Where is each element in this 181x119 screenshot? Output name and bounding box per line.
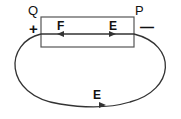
label-e-inside: E [109, 20, 117, 32]
label-f: F [57, 20, 64, 32]
minus-sign: — [140, 20, 154, 34]
label-p: P [135, 4, 144, 17]
plus-sign: + [29, 21, 38, 36]
label-e-loop: E [93, 89, 101, 101]
battery-box [41, 17, 134, 47]
external-loop [15, 34, 165, 107]
label-q: Q [28, 4, 38, 17]
